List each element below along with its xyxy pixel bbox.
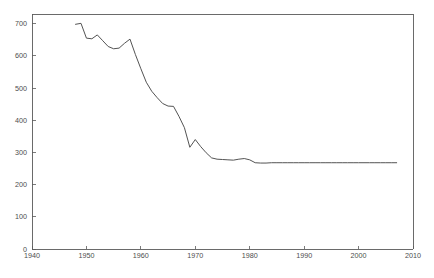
y-tick-label: 200 [15, 180, 27, 189]
x-tick-label: 1970 [187, 251, 203, 260]
line-chart: 0100200300400500600700 19401950196019701… [0, 0, 434, 278]
x-tick-label: 1950 [78, 251, 94, 260]
y-tick-label: 700 [15, 19, 27, 28]
y-tick-label: 300 [15, 148, 27, 157]
x-tick-label: 2010 [405, 251, 421, 260]
x-tick-label: 1990 [296, 251, 312, 260]
x-tick-label: 1980 [242, 251, 258, 260]
x-tick-label: 1940 [24, 251, 40, 260]
x-tick-label: 2000 [351, 251, 367, 260]
chart-background [0, 0, 434, 278]
y-tick-label: 100 [15, 212, 27, 221]
y-tick-label: 400 [15, 116, 27, 125]
y-tick-label: 500 [15, 84, 27, 93]
y-tick-label: 600 [15, 51, 27, 60]
chart-figure: 0100200300400500600700 19401950196019701… [0, 0, 434, 278]
x-tick-label: 1960 [133, 251, 149, 260]
